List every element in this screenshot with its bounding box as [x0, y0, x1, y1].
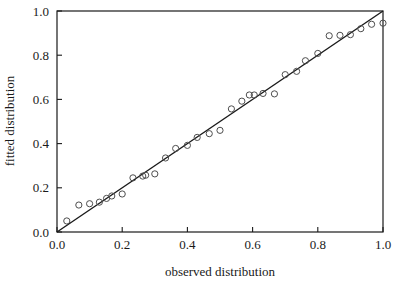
x-axis-tick-labels: 0.00.20.40.60.81.0	[49, 237, 391, 252]
data-point-marker	[217, 127, 223, 133]
x-tick-label: 0.6	[244, 237, 261, 252]
y-tick-label: 0.4	[33, 136, 50, 151]
y-tick-label: 0.6	[33, 92, 50, 107]
y-axis-tick-labels: 0.00.20.40.60.81.0	[33, 4, 50, 240]
data-point-marker	[271, 91, 277, 97]
data-point-marker	[64, 218, 70, 224]
x-axis-title: observed distribution	[165, 264, 276, 279]
scatter-plot-figure: 0.00.20.40.60.81.0 0.00.20.40.60.81.0 ob…	[0, 0, 403, 284]
x-tick-label: 0.4	[179, 237, 196, 252]
y-tick-label: 0.2	[33, 180, 49, 195]
plot-canvas: 0.00.20.40.60.81.0 0.00.20.40.60.81.0 ob…	[0, 0, 403, 284]
y-axis-title: fitted distribution	[2, 75, 17, 166]
x-tick-label: 0.0	[49, 237, 65, 252]
x-tick-label: 0.8	[310, 237, 326, 252]
data-point-marker	[87, 201, 93, 207]
reference-line	[57, 11, 383, 232]
data-point-marker	[239, 98, 245, 104]
data-point-marker	[368, 21, 374, 27]
data-point-marker	[326, 33, 332, 39]
x-tick-label: 0.2	[114, 237, 130, 252]
data-point-marker	[228, 106, 234, 112]
y-tick-label: 1.0	[33, 4, 49, 19]
identity-reference-line	[57, 11, 383, 232]
data-point-marker	[152, 171, 158, 177]
data-point-marker	[337, 32, 343, 38]
data-point-marker	[119, 191, 125, 197]
y-tick-label: 0.8	[33, 48, 49, 63]
data-point-series	[64, 20, 386, 224]
x-tick-label: 1.0	[375, 237, 391, 252]
data-point-marker	[206, 131, 212, 137]
data-point-marker	[173, 145, 179, 151]
y-tick-label: 0.0	[33, 225, 49, 240]
data-point-marker	[76, 202, 82, 208]
